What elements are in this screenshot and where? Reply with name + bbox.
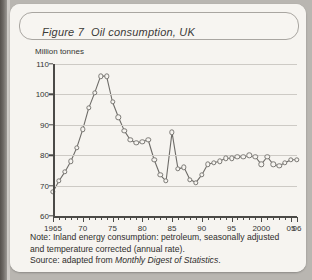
- chart-area: Million tonnes 60708090100110 1965707580…: [19, 42, 297, 228]
- grid-line: [53, 125, 297, 126]
- x-axis-tick-mark: [154, 217, 155, 220]
- source-prefix: adapted from: [60, 255, 115, 265]
- x-axis-tick-mark: [65, 217, 66, 220]
- y-axis-tick-label: 110: [36, 60, 49, 69]
- x-axis-tick-mark: [232, 217, 233, 222]
- x-axis-tick-mark: [279, 217, 280, 220]
- x-axis-tick-mark: [59, 217, 60, 220]
- note-line: Note: Inland energy consumption: petrole…: [30, 232, 296, 255]
- x-axis-tick-mark: [53, 217, 54, 222]
- y-axis-tick-label: 80: [40, 151, 49, 160]
- x-axis-tick-mark: [202, 217, 203, 222]
- note-text: Inland energy consumption: petroleum, se…: [30, 232, 279, 254]
- x-axis-tick-mark: [243, 217, 244, 220]
- source-suffix: .: [218, 255, 220, 265]
- x-axis-tick-mark: [77, 217, 78, 220]
- x-axis-tick-mark: [255, 217, 256, 220]
- x-axis-tick-mark: [89, 217, 90, 220]
- page-background: Figure 7Oil consumption, UK Million tonn…: [0, 0, 312, 280]
- grid-line: [53, 155, 297, 156]
- x-axis-tick-mark: [172, 217, 173, 222]
- source-line: Source: adapted from Monthly Digest of S…: [30, 255, 296, 267]
- x-axis-tick-mark: [142, 217, 143, 222]
- x-axis-tick-mark: [113, 217, 114, 222]
- x-axis-tick-mark: [267, 217, 268, 220]
- x-axis-tick-mark: [71, 217, 72, 220]
- x-axis-tick-mark: [130, 217, 131, 220]
- x-axis-tick-mark: [237, 217, 238, 220]
- grid-line: [53, 186, 297, 187]
- x-axis-tick-mark: [160, 217, 161, 220]
- x-axis-tick-mark: [196, 217, 197, 220]
- y-axis-tick-label: 70: [40, 181, 49, 190]
- x-axis-tick-mark: [101, 217, 102, 220]
- x-axis-tick-mark: [166, 217, 167, 220]
- x-axis-tick-mark: [261, 217, 262, 222]
- x-axis-tick-mark: [214, 217, 215, 220]
- x-axis-tick-mark: [83, 217, 84, 222]
- y-axis-tick-label: 100: [36, 90, 49, 99]
- figure-card: Figure 7Oil consumption, UK Million tonn…: [10, 4, 306, 272]
- x-axis-tick-mark: [148, 217, 149, 220]
- x-axis-tick-mark: [291, 217, 292, 222]
- x-axis-tick-mark: [297, 217, 298, 222]
- scan-edge-left: [0, 0, 7, 280]
- x-axis-tick-mark: [136, 217, 137, 220]
- series-line: [53, 64, 297, 216]
- x-axis-tick-mark: [190, 217, 191, 220]
- x-axis-tick-mark: [208, 217, 209, 220]
- x-axis-tick-mark: [249, 217, 250, 220]
- figure-title-text: Oil consumption, UK: [91, 26, 195, 38]
- x-axis-tick-mark: [124, 217, 125, 220]
- x-axis-tick-mark: [184, 217, 185, 220]
- x-axis-tick-mark: [285, 217, 286, 220]
- x-axis-tick-mark: [118, 217, 119, 220]
- figure-number: Figure 7: [42, 26, 84, 38]
- page-title: Figure 7Oil consumption, UK: [42, 26, 195, 38]
- source-label: Source:: [30, 255, 60, 265]
- y-axis-tick-label: 90: [40, 120, 49, 129]
- grid-line: [53, 64, 297, 65]
- grid-line: [53, 94, 297, 95]
- figure-notes: Note: Inland energy consumption: petrole…: [30, 232, 296, 267]
- x-axis-tick-mark: [220, 217, 221, 220]
- x-axis-tick-mark: [107, 217, 108, 220]
- y-axis-line: [53, 64, 55, 217]
- x-axis-tick-mark: [226, 217, 227, 220]
- x-axis-tick-mark: [178, 217, 179, 220]
- x-axis-tick-mark: [273, 217, 274, 220]
- y-axis-label: Million tonnes: [35, 47, 84, 56]
- note-label: Note:: [30, 232, 51, 242]
- x-axis-tick-mark: [95, 217, 96, 220]
- y-axis-tick-label: 60: [40, 212, 49, 221]
- source-title: Monthly Digest of Statistics: [115, 255, 218, 265]
- figure-title-box: Figure 7Oil consumption, UK: [19, 12, 299, 40]
- plot-canvas: 60708090100110: [53, 64, 297, 216]
